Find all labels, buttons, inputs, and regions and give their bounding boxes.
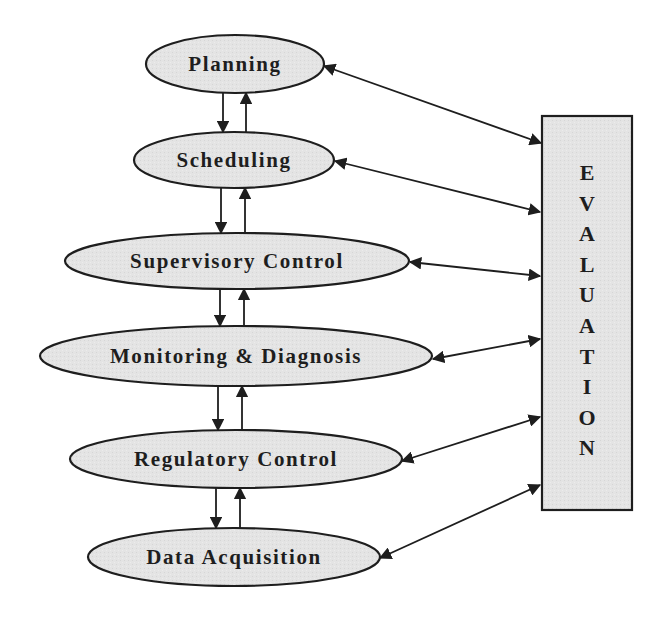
bidirectional-arrow-data-acquisition-evaluation bbox=[380, 485, 540, 558]
node-label: Scheduling bbox=[176, 148, 291, 172]
evaluation-letter: E bbox=[580, 160, 595, 185]
evaluation-letter: L bbox=[580, 252, 595, 277]
node-monitoring-diagnosis: Monitoring & Diagnosis bbox=[40, 326, 432, 386]
evaluation-letter: A bbox=[579, 313, 595, 338]
bidirectional-arrow-supervisory-control-evaluation bbox=[410, 262, 540, 276]
node-label: Data Acquisition bbox=[146, 545, 322, 569]
node-label: Regulatory Control bbox=[134, 447, 338, 471]
node-data-acquisition: Data Acquisition bbox=[88, 528, 380, 586]
evaluation-letter: O bbox=[578, 405, 595, 430]
evaluation-letter: N bbox=[579, 435, 595, 460]
evaluation-box: EVALUATION bbox=[542, 116, 632, 510]
bidirectional-arrow-monitoring-diagnosis-evaluation bbox=[433, 339, 540, 359]
bidirectional-arrow-scheduling-evaluation bbox=[335, 161, 540, 212]
evaluation-links bbox=[324, 66, 541, 558]
evaluation-letter: U bbox=[579, 282, 595, 307]
node-supervisory-control: Supervisory Control bbox=[65, 233, 409, 289]
evaluation-letter: I bbox=[583, 374, 592, 399]
node-label: Planning bbox=[188, 52, 281, 76]
node-label: Monitoring & Diagnosis bbox=[110, 344, 362, 368]
bidirectional-arrow-planning-evaluation bbox=[324, 66, 541, 143]
node-regulatory-control: Regulatory Control bbox=[70, 430, 402, 488]
node-scheduling: Scheduling bbox=[134, 132, 334, 188]
evaluation-letter: V bbox=[579, 191, 595, 216]
hierarchy-diagram: EVALUATION PlanningSchedulingSupervisory… bbox=[0, 0, 666, 617]
nodes: PlanningSchedulingSupervisory ControlMon… bbox=[40, 35, 432, 586]
evaluation-letter: T bbox=[580, 344, 595, 369]
bidirectional-arrow-regulatory-control-evaluation bbox=[402, 417, 540, 461]
node-planning: Planning bbox=[146, 35, 324, 93]
evaluation-letter: A bbox=[579, 221, 595, 246]
node-label: Supervisory Control bbox=[130, 249, 344, 273]
